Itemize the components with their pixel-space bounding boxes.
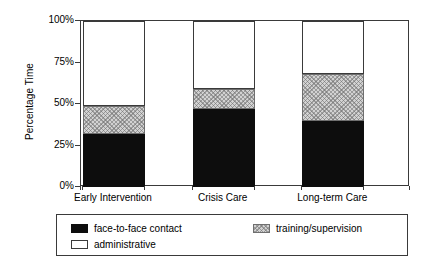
bar-segment-face-to-face-contact	[193, 109, 255, 187]
bar-segment-training-supervision	[302, 74, 364, 120]
white-empty-swatch	[71, 240, 88, 249]
x-axis-tick-label: Crisis Care	[198, 192, 247, 203]
legend-item: training/supervision	[253, 223, 362, 234]
black-solid-swatch	[71, 224, 88, 233]
y-axis-tick-label: 50%	[30, 98, 74, 108]
x-axis-tick-label: Early Intervention	[74, 192, 152, 203]
legend-item-label: administrative	[94, 239, 156, 250]
bar-segment-face-to-face-contact	[302, 121, 364, 187]
y-axis-tick-label: 100%	[30, 15, 74, 25]
legend-item: face-to-face contact	[71, 223, 182, 234]
gray-hatched-swatch	[253, 224, 270, 233]
bar-segment-administrative	[302, 21, 364, 74]
bar-segment-training-supervision	[193, 89, 255, 109]
y-axis-tick-label: 25%	[30, 140, 74, 150]
x-axis-tick-mark	[82, 186, 83, 190]
bar-segment-administrative	[193, 21, 255, 89]
bar-crisis-care	[193, 21, 255, 187]
bar-long-term-care	[302, 21, 364, 187]
legend-item: administrative	[71, 239, 156, 250]
plot-area	[80, 20, 409, 186]
y-axis-tick-label: 0%	[30, 181, 74, 191]
x-axis-tick-label: Long-term Care	[297, 192, 367, 203]
x-axis-tick-mark	[409, 186, 410, 190]
chart-legend: face-to-face contacttraining/supervision…	[56, 214, 408, 256]
bar-early-intervention	[83, 21, 145, 187]
x-axis-tick-mark	[254, 186, 255, 190]
x-axis-tick-mark	[80, 186, 81, 190]
x-axis-tick-mark	[301, 186, 302, 190]
bar-segment-face-to-face-contact	[83, 134, 145, 187]
x-axis-tick-mark	[363, 186, 364, 190]
legend-item-label: training/supervision	[276, 223, 362, 234]
stacked-bar-chart: Percentage Time 0%25%50%75%100% Early In…	[0, 0, 429, 264]
x-axis-tick-mark	[192, 186, 193, 190]
legend-item-label: face-to-face contact	[94, 223, 182, 234]
x-axis-tick-mark	[144, 186, 145, 190]
bar-segment-administrative	[83, 21, 145, 106]
bar-segment-training-supervision	[83, 106, 145, 134]
y-axis-tick-label: 75%	[30, 57, 74, 67]
